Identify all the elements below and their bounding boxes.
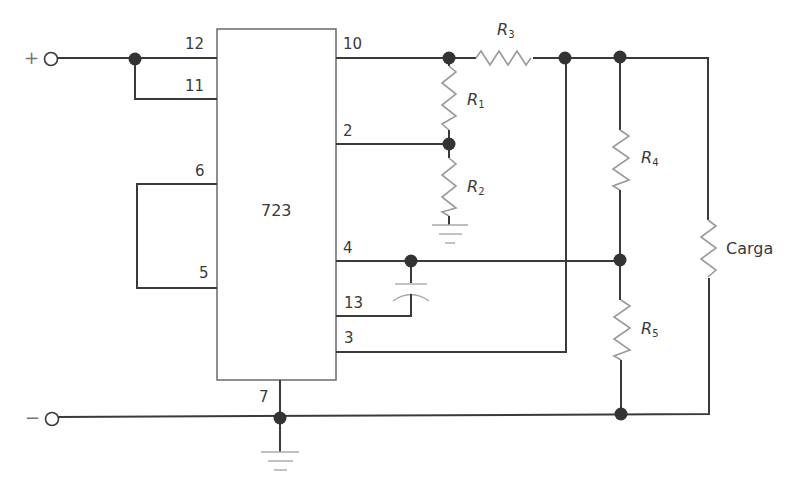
junction-node: [405, 255, 418, 268]
pin-label-3: 3: [344, 331, 354, 346]
resistor-r1: [442, 66, 456, 130]
junction-node: [614, 254, 627, 267]
ground-icon-r2: [432, 225, 468, 243]
junction-node: [559, 52, 572, 65]
load-label: Carga: [726, 241, 773, 257]
junction-node: [443, 138, 456, 151]
pin-label-11: 11: [185, 79, 204, 94]
positive-sign: +: [24, 49, 39, 67]
resistor-r5: [614, 300, 630, 360]
wire-pin11: [135, 58, 217, 99]
pin-label-13: 13: [344, 296, 363, 311]
pin-label-2: 2: [343, 124, 353, 139]
pin-label-7: 7: [259, 390, 269, 405]
ic-label: 723: [261, 203, 292, 219]
label-r2: R2: [467, 179, 485, 197]
label-r3: R3: [497, 22, 515, 40]
pin-label-10: 10: [343, 37, 362, 52]
pin-label-12: 12: [185, 37, 204, 52]
circuit-diagram: + − 723 12 11 6 5 10 2 4 13 3 7 R3 R1 R2…: [0, 0, 795, 489]
resistor-r2: [442, 158, 456, 216]
junction-node: [129, 53, 142, 66]
label-r5: R5: [641, 321, 659, 339]
label-r1: R1: [467, 92, 485, 110]
resistor-r4: [613, 130, 629, 190]
resistor-load: [701, 220, 716, 277]
wire-return: [57, 278, 709, 417]
positive-terminal[interactable]: [45, 53, 58, 66]
pin-label-5: 5: [199, 266, 209, 281]
resistor-r3: [476, 51, 531, 65]
pin-label-6: 6: [195, 164, 205, 179]
junction-node: [615, 408, 628, 421]
schematic-graphics: [0, 0, 795, 489]
pin-label-4: 4: [343, 241, 353, 256]
junction-node: [443, 52, 456, 65]
junction-node: [274, 412, 287, 425]
negative-terminal[interactable]: [46, 413, 59, 426]
ground-icon-main: [261, 452, 299, 470]
label-r4: R4: [641, 150, 659, 168]
junction-node: [614, 51, 627, 64]
negative-sign: −: [25, 409, 40, 427]
